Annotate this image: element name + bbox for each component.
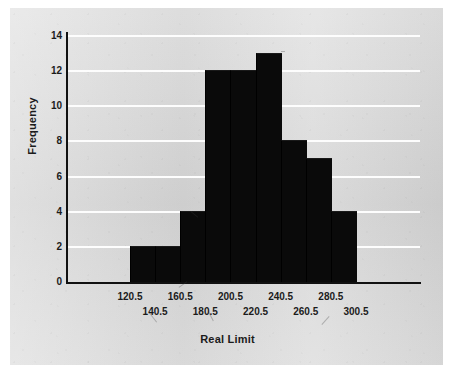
y-axis-title: Frequency <box>26 71 38 181</box>
y-tick-label-8: 8 <box>36 136 62 146</box>
y-axis-ticks: 02468101214 <box>30 0 62 381</box>
x-tick-label-120.5: 120.5 <box>105 291 155 302</box>
bar <box>306 158 332 282</box>
bar <box>180 211 206 282</box>
bar <box>230 70 256 282</box>
x-tick-label-280.5: 280.5 <box>306 291 356 302</box>
plot-area <box>67 36 420 282</box>
bars-layer <box>67 36 420 282</box>
x-tick-label-220.5: 220.5 <box>231 306 281 317</box>
bar <box>281 140 307 282</box>
bar <box>205 70 231 282</box>
y-tick-label-10: 10 <box>36 101 62 111</box>
x-axis-title: Real Limit <box>0 333 455 345</box>
bar <box>155 246 181 282</box>
x-axis-line <box>66 282 421 284</box>
x-tick-label-160.5: 160.5 <box>155 291 205 302</box>
y-tick-label-12: 12 <box>36 66 62 76</box>
y-axis-line <box>66 32 68 284</box>
bar <box>331 211 357 282</box>
x-tick-label-200.5: 200.5 <box>205 291 255 302</box>
y-tick-label-0: 0 <box>36 277 62 287</box>
x-tick-label-240.5: 240.5 <box>256 291 306 302</box>
x-tick-label-180.5: 180.5 <box>180 306 230 317</box>
x-tick-label-140.5: 140.5 <box>130 306 180 317</box>
y-tick-label-6: 6 <box>36 172 62 182</box>
y-tick-label-14: 14 <box>36 31 62 41</box>
histogram-figure: 02468101214 Frequency 120.5140.5160.5180… <box>0 0 455 381</box>
bar <box>256 53 282 282</box>
x-tick-label-260.5: 260.5 <box>281 306 331 317</box>
bar <box>130 246 156 282</box>
y-tick-label-4: 4 <box>36 207 62 217</box>
x-tick-label-300.5: 300.5 <box>331 306 381 317</box>
y-tick-label-2: 2 <box>36 242 62 252</box>
